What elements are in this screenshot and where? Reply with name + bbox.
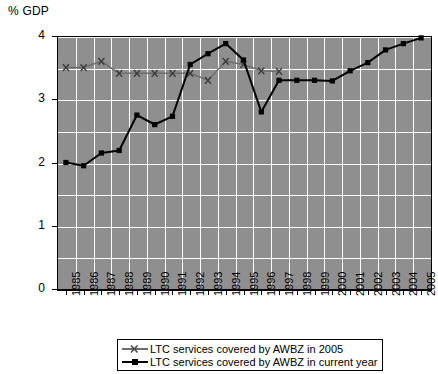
data-point-marker <box>117 148 122 153</box>
data-point-marker <box>170 114 175 119</box>
data-point-marker <box>401 41 406 46</box>
data-point-marker <box>383 47 388 52</box>
chart-legend: LTC services covered by AWBZ in 2005 LTC… <box>117 339 383 371</box>
legend-label: LTC services covered by AWBZ in 2005 <box>150 343 343 355</box>
data-point-marker <box>241 57 246 62</box>
data-point-marker <box>99 150 104 155</box>
legend-key-square-marker <box>122 356 148 368</box>
series-layer <box>0 0 438 374</box>
data-point-marker <box>152 122 157 127</box>
data-point-marker <box>419 35 424 40</box>
data-point-marker <box>63 160 68 165</box>
series-ltc-2005 <box>63 58 282 84</box>
chart-figure: % GDP 01234 1985198619871988198919901991… <box>0 0 438 374</box>
legend-key-x-marker <box>122 343 148 355</box>
series-line <box>66 38 421 166</box>
legend-label: LTC services covered by AWBZ in current … <box>150 356 377 368</box>
data-point-marker <box>330 78 335 83</box>
data-point-marker <box>205 51 210 56</box>
data-point-marker <box>134 113 139 118</box>
data-point-marker <box>259 109 264 114</box>
data-point-marker <box>223 41 228 46</box>
data-point-marker <box>312 78 317 83</box>
data-point-marker <box>81 163 86 168</box>
data-point-marker <box>188 62 193 67</box>
data-point-marker <box>294 78 299 83</box>
data-point-marker <box>365 60 370 65</box>
data-point-marker <box>348 68 353 73</box>
legend-item-ltc-current: LTC services covered by AWBZ in current … <box>122 355 377 368</box>
series-ltc-current-year <box>63 35 423 168</box>
legend-item-ltc-2005: LTC services covered by AWBZ in 2005 <box>122 342 377 355</box>
data-point-marker <box>276 78 281 83</box>
